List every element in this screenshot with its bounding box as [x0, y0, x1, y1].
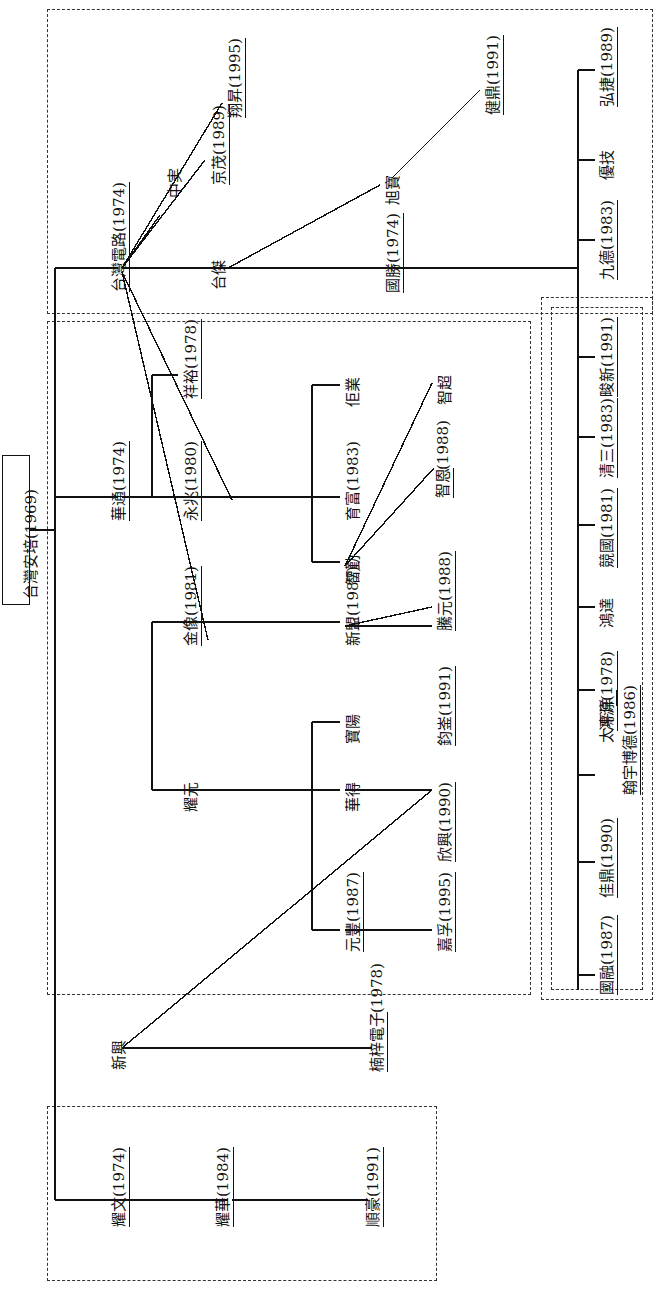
- root-node-label: 台灣安培(1969): [24, 489, 40, 599]
- node-jiafu[interactable]: 嘉孚(1995): [438, 872, 454, 952]
- node-taiwan-circuit[interactable]: 台灣電路(1974): [112, 182, 128, 292]
- node-zhongshi[interactable]: 中実: [168, 168, 184, 198]
- node-jinxiang[interactable]: 金像(1981): [184, 566, 200, 646]
- node-jiading[interactable]: 佳鼎(1990): [600, 818, 616, 898]
- node-jingmao[interactable]: 京茂(1989): [212, 105, 228, 185]
- group-box-taiwan-circuit: [47, 9, 653, 314]
- node-hongjie[interactable]: 弘捷(1989): [600, 27, 616, 107]
- node-yuanfeng[interactable]: 元豐(1987): [346, 872, 362, 952]
- node-xinxing-1990[interactable]: 欣興(1990): [438, 782, 454, 862]
- node-yaohua[interactable]: 耀華(1984): [216, 1147, 232, 1227]
- node-youji[interactable]: 優技: [600, 150, 616, 180]
- node-zhien[interactable]: 智恩 (1988): [436, 420, 454, 498]
- node-junxin[interactable]: 畯新(1991): [600, 317, 616, 397]
- node-huade[interactable]: 華得: [346, 782, 362, 812]
- node-quanye[interactable]: 佢業: [346, 377, 362, 407]
- node-jingguo[interactable]: 競國(1981): [600, 488, 616, 568]
- node-qingsan[interactable]: 清三(1983): [600, 398, 616, 478]
- node-jiude[interactable]: 九德(1983): [600, 200, 616, 280]
- node-taijie[interactable]: 台傑: [212, 260, 228, 290]
- node-yaowen[interactable]: 耀文(1974): [112, 1147, 128, 1227]
- node-yufu[interactable]: 育富(1983): [346, 441, 362, 521]
- group-box-right-inner: [551, 307, 643, 990]
- node-junpu[interactable]: 鈞崟(1991): [438, 666, 454, 746]
- node-guosheng[interactable]: 國勝(1974): [386, 213, 402, 293]
- node-shunhao[interactable]: 順豪(1991): [366, 1147, 382, 1227]
- node-guorong[interactable]: 國融(1987): [600, 915, 616, 995]
- group-box-huatong: [47, 321, 531, 995]
- node-zhichao[interactable]: 智超: [438, 375, 454, 405]
- node-xinmeng[interactable]: 新盟(1987): [346, 566, 362, 646]
- root-node-box: 台灣安培(1969): [2, 455, 30, 605]
- node-jianding[interactable]: 健鼎(1991): [486, 35, 502, 115]
- node-baoyang[interactable]: 寶陽: [346, 714, 362, 744]
- node-xinxing[interactable]: 新興: [112, 1040, 128, 1070]
- node-xiangsheng[interactable]: 翔昇(1995): [228, 38, 244, 118]
- node-nanzi-electronics[interactable]: 楠梓電子 (1978): [370, 963, 388, 1072]
- node-tengyuan[interactable]: 騰元(1988): [438, 551, 454, 631]
- node-huatong[interactable]: 華通(1974): [112, 441, 128, 521]
- node-hongda[interactable]: 鴻達: [600, 598, 616, 628]
- node-xubao[interactable]: 旭寶: [386, 175, 402, 205]
- node-hanyubode[interactable]: 翰宇博德(1986): [623, 685, 639, 795]
- node-yongzhao[interactable]: 永兆(1980): [184, 441, 200, 521]
- node-yaoyuan[interactable]: 耀元: [184, 782, 200, 812]
- node-taipingyang[interactable]: 太平洋: [600, 698, 616, 743]
- node-xiangyu[interactable]: 祥裕(1978): [184, 319, 200, 399]
- genealogy-diagram: 台灣安培(1969): [0, 0, 661, 1290]
